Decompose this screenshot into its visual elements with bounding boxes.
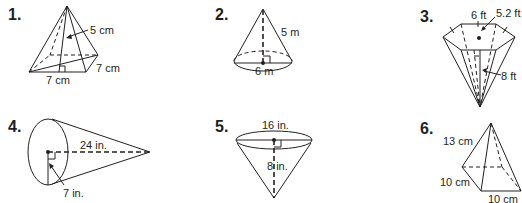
height-label: 8 in.	[267, 160, 288, 172]
problem-3: 3. 6 ft 5.2 ft 8 ft	[350, 0, 522, 110]
square-pyramid-figure: 13 cm 10 cm 10 cm	[350, 100, 522, 203]
radius-label: 7 in.	[63, 187, 84, 199]
side-label: 6 ft	[471, 9, 486, 21]
problem-6: 6. 13 cm 10 cm 10 cm	[350, 100, 522, 203]
hexagonal-pyramid-figure: 6 ft 5.2 ft 8 ft	[350, 0, 522, 110]
lateral-edge-label: 13 cm	[443, 135, 473, 147]
base-front-label: 7 cm	[46, 74, 70, 86]
slant-height-label: 5 cm	[90, 24, 114, 36]
problem-1: 1. 5 cm 7 cm 7 cm	[0, 0, 175, 100]
square-pyramid-figure: 5 cm 7 cm 7 cm	[0, 0, 175, 100]
cone-figure: 24 in. 7 in.	[0, 100, 175, 203]
inverted-cone-figure: 16 in. 8 in.	[175, 100, 350, 203]
height-label: 24 in.	[80, 139, 107, 151]
slant-height-label: 8 ft	[501, 70, 516, 82]
problem-2: 2. 5 m 6 m	[175, 0, 350, 100]
base-side-label: 7 cm	[96, 62, 120, 74]
cone-figure: 5 m 6 m	[175, 0, 350, 100]
diameter-label: 6 m	[255, 65, 273, 77]
base-front-label: 10 cm	[488, 193, 518, 203]
base-left-label: 10 cm	[440, 176, 470, 188]
problem-5: 5. 16 in. 8 in.	[175, 100, 350, 203]
slant-height-label: 5 m	[281, 26, 299, 38]
apothem-label: 5.2 ft	[496, 7, 520, 19]
problem-4: 4. 24 in. 7 in.	[0, 100, 175, 203]
diameter-label: 16 in.	[262, 119, 289, 131]
